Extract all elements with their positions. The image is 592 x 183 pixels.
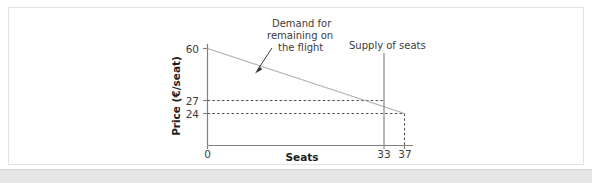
x-axis-title: Seats bbox=[285, 151, 318, 163]
y-tick-label-27: 27 bbox=[186, 95, 199, 107]
economics-line-chart: 60 27 24 0 33 37 Price (€/seat) Seats De… bbox=[0, 0, 592, 183]
demand-annotation-line-1: Demand for bbox=[272, 18, 332, 29]
y-axis-title: Price (€/seat) bbox=[170, 56, 182, 136]
demand-annotation-line-2: remaining on bbox=[267, 30, 333, 41]
x-tick-label-33: 33 bbox=[377, 148, 390, 160]
x-tick-label-37: 37 bbox=[398, 148, 411, 160]
supply-annotation-label: Supply of seats bbox=[349, 40, 426, 51]
demand-callout-arrowhead bbox=[255, 66, 262, 73]
y-tick-label-60: 60 bbox=[186, 43, 199, 55]
demand-annotation-line-3: the flight bbox=[278, 42, 323, 53]
x-tick-label-0: 0 bbox=[204, 148, 211, 160]
figure-page: 60 27 24 0 33 37 Price (€/seat) Seats De… bbox=[0, 0, 592, 183]
page-footer-strip bbox=[0, 170, 592, 183]
y-tick-label-24: 24 bbox=[186, 108, 200, 120]
demand-curve bbox=[208, 49, 405, 114]
